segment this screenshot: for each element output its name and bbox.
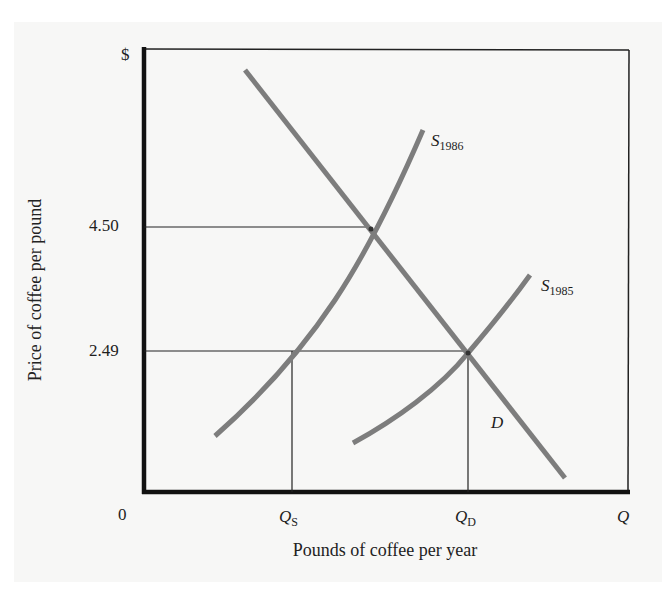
supply-1986-label: S1986 <box>431 131 464 151</box>
origin-label: 0 <box>118 505 127 525</box>
y-tick-450: 4.50 <box>89 216 119 236</box>
x-axis-title: Pounds of coffee per year <box>293 540 478 561</box>
demand-curve <box>245 70 565 478</box>
y-axis-title: Price of coffee per pound <box>25 199 46 382</box>
y-axis-dollar-label: $ <box>121 45 130 65</box>
x-tick-qd: QD <box>455 507 476 527</box>
supply-1985-label: S1985 <box>541 276 574 296</box>
y-tick-249: 2.49 <box>89 341 119 361</box>
supply-1985-curve <box>353 275 530 443</box>
x-tick-qs: QS <box>279 507 298 527</box>
frame-right <box>628 50 629 492</box>
frame-top <box>144 49 629 50</box>
x-axis-end-label: Q <box>617 507 629 527</box>
equilibrium-1986-point <box>369 227 374 232</box>
equilibrium-1985-point <box>466 351 471 356</box>
supply-1986-curve <box>215 130 423 436</box>
demand-label: D <box>491 413 503 433</box>
